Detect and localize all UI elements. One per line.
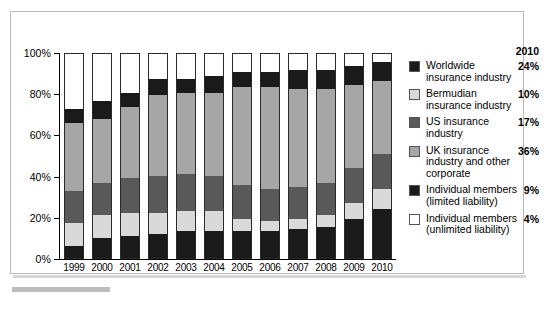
bar-segment[interactable] bbox=[289, 70, 307, 88]
bar-segment[interactable] bbox=[93, 101, 111, 119]
bar-segment[interactable] bbox=[345, 219, 363, 258]
bar-segment[interactable] bbox=[289, 89, 307, 187]
bar-segment[interactable] bbox=[65, 223, 83, 245]
bar-column[interactable] bbox=[312, 53, 340, 259]
bar-segment[interactable] bbox=[289, 54, 307, 70]
bar-segment[interactable] bbox=[345, 168, 363, 203]
legend-item[interactable]: Individual members (limited liability)9% bbox=[409, 184, 539, 207]
bar-segment[interactable] bbox=[149, 79, 167, 95]
bar-segment[interactable] bbox=[149, 176, 167, 213]
bar-segment[interactable] bbox=[65, 123, 83, 190]
bar-segment[interactable] bbox=[317, 183, 335, 216]
bar-segment[interactable] bbox=[205, 93, 223, 177]
bar-segment[interactable] bbox=[345, 85, 363, 169]
bar-segment[interactable] bbox=[205, 211, 223, 231]
bar-segment[interactable] bbox=[177, 174, 195, 211]
bar-segment[interactable] bbox=[121, 54, 139, 93]
bar-segment[interactable] bbox=[261, 231, 279, 258]
bar-column[interactable] bbox=[340, 53, 368, 259]
bar-segment[interactable] bbox=[177, 54, 195, 78]
bar-segment[interactable] bbox=[373, 209, 391, 258]
stacked-bar[interactable] bbox=[260, 53, 280, 259]
bar-column[interactable] bbox=[284, 53, 312, 259]
bar-segment[interactable] bbox=[261, 189, 279, 222]
bar-segment[interactable] bbox=[345, 54, 363, 66]
bar-column[interactable] bbox=[144, 53, 172, 259]
bar-segment[interactable] bbox=[373, 54, 391, 62]
bar-segment[interactable] bbox=[205, 176, 223, 211]
stacked-bar[interactable] bbox=[344, 53, 364, 259]
stacked-bar[interactable] bbox=[176, 53, 196, 259]
bar-segment[interactable] bbox=[261, 72, 279, 86]
bar-segment[interactable] bbox=[345, 203, 363, 219]
bar-segment[interactable] bbox=[65, 109, 83, 123]
legend-item[interactable]: UK insurance industry and other corporat… bbox=[409, 145, 539, 180]
bar-segment[interactable] bbox=[317, 215, 335, 227]
stacked-bar[interactable] bbox=[120, 53, 140, 259]
bar-segment[interactable] bbox=[149, 95, 167, 177]
bar-segment[interactable] bbox=[373, 189, 391, 209]
stacked-bar[interactable] bbox=[288, 53, 308, 259]
legend-item[interactable]: Worldwide insurance industry24% bbox=[409, 60, 539, 83]
stacked-bar[interactable] bbox=[372, 53, 392, 259]
bar-segment[interactable] bbox=[233, 72, 251, 86]
bar-segment[interactable] bbox=[233, 185, 251, 220]
stacked-bar[interactable] bbox=[64, 53, 84, 259]
bar-segment[interactable] bbox=[121, 213, 139, 235]
bar-segment[interactable] bbox=[317, 70, 335, 88]
bar-segment[interactable] bbox=[205, 76, 223, 92]
bar-column[interactable] bbox=[256, 53, 284, 259]
bar-segment[interactable] bbox=[317, 227, 335, 258]
bar-column[interactable] bbox=[368, 53, 396, 259]
bar-segment[interactable] bbox=[93, 119, 111, 182]
bar-segment[interactable] bbox=[149, 54, 167, 78]
bar-segment[interactable] bbox=[121, 178, 139, 213]
bar-segment[interactable] bbox=[93, 54, 111, 101]
bar-segment[interactable] bbox=[65, 54, 83, 109]
bar-segment[interactable] bbox=[149, 234, 167, 258]
bar-segment[interactable] bbox=[233, 87, 251, 185]
bar-segment[interactable] bbox=[317, 54, 335, 70]
legend-item[interactable]: US insurance industry17% bbox=[409, 116, 539, 139]
bar-segment[interactable] bbox=[177, 93, 195, 175]
bar-segment[interactable] bbox=[121, 107, 139, 178]
bar-segment[interactable] bbox=[65, 246, 83, 258]
bar-segment[interactable] bbox=[93, 215, 111, 237]
bar-segment[interactable] bbox=[261, 87, 279, 189]
bar-column[interactable] bbox=[60, 53, 88, 259]
stacked-bar[interactable] bbox=[316, 53, 336, 259]
bar-segment[interactable] bbox=[149, 213, 167, 233]
bar-segment[interactable] bbox=[121, 236, 139, 258]
bar-segment[interactable] bbox=[205, 231, 223, 258]
bar-segment[interactable] bbox=[289, 229, 307, 258]
bar-segment[interactable] bbox=[93, 183, 111, 216]
bar-segment[interactable] bbox=[233, 219, 251, 231]
stacked-bar[interactable] bbox=[148, 53, 168, 259]
bar-segment[interactable] bbox=[261, 54, 279, 72]
bar-segment[interactable] bbox=[373, 81, 391, 154]
bar-column[interactable] bbox=[228, 53, 256, 259]
bar-column[interactable] bbox=[88, 53, 116, 259]
stacked-bar[interactable] bbox=[204, 53, 224, 259]
bar-segment[interactable] bbox=[233, 231, 251, 258]
bar-segment[interactable] bbox=[233, 54, 251, 72]
bar-segment[interactable] bbox=[345, 66, 363, 84]
bar-segment[interactable] bbox=[373, 154, 391, 189]
bar-segment[interactable] bbox=[121, 93, 139, 107]
bar-column[interactable] bbox=[200, 53, 228, 259]
bar-column[interactable] bbox=[116, 53, 144, 259]
bar-segment[interactable] bbox=[289, 187, 307, 220]
bar-segment[interactable] bbox=[373, 62, 391, 80]
bar-segment[interactable] bbox=[177, 211, 195, 231]
bar-segment[interactable] bbox=[177, 231, 195, 258]
legend-item[interactable]: Individual members (unlimited liability)… bbox=[409, 213, 539, 236]
bar-segment[interactable] bbox=[289, 219, 307, 229]
bar-segment[interactable] bbox=[205, 54, 223, 76]
bar-column[interactable] bbox=[172, 53, 200, 259]
stacked-bar[interactable] bbox=[92, 53, 112, 259]
bar-segment[interactable] bbox=[261, 221, 279, 231]
stacked-bar[interactable] bbox=[232, 53, 252, 259]
bar-segment[interactable] bbox=[65, 191, 83, 224]
legend-item[interactable]: Bermudian insurance industry10% bbox=[409, 88, 539, 111]
bar-segment[interactable] bbox=[317, 89, 335, 183]
